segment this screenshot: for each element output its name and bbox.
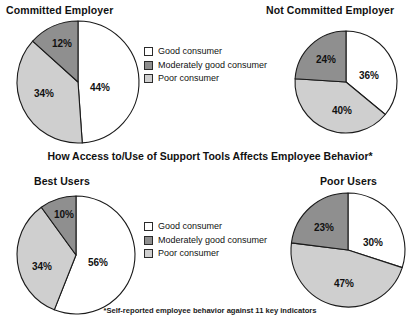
legend-label-moderate: Moderately good consumer <box>158 235 267 246</box>
pie-title-committed-employer: Committed Employer <box>6 4 113 16</box>
pie-svg-poor-users: 30%47%23% <box>288 190 408 310</box>
legend-item-moderate: Moderately good consumer <box>144 60 267 71</box>
pie-value-poor: 34% <box>32 261 52 272</box>
legend-item-good: Good consumer <box>144 46 267 57</box>
pie-value-good: 36% <box>359 70 379 81</box>
legend-swatch-good-icon <box>144 222 153 231</box>
pie-value-moderate: 23% <box>314 222 334 233</box>
legend-item-poor: Poor consumer <box>144 248 267 259</box>
pie-value-good: 56% <box>88 257 108 268</box>
pie-chart-best-users: 56%34%10% <box>14 193 138 317</box>
pie-svg-not-committed-employer: 36%40%24% <box>292 28 400 136</box>
figure-pie-chart-set: Committed Employer 44%34%12% Not Committ… <box>0 0 420 330</box>
pie-value-poor: 34% <box>34 88 54 99</box>
legend-item-good: Good consumer <box>144 221 267 232</box>
pie-value-moderate: 12% <box>52 38 72 49</box>
pie-title-best-users: Best Users <box>34 175 90 187</box>
footnote: *Self-reported employee behavior against… <box>0 306 420 315</box>
legend-swatch-good-icon <box>144 47 153 56</box>
pie-value-poor: 40% <box>332 105 352 116</box>
legend-swatch-poor-icon <box>144 249 153 258</box>
legend-item-moderate: Moderately good consumer <box>144 235 267 246</box>
pie-value-good: 44% <box>90 82 110 93</box>
legend-label-good: Good consumer <box>158 221 222 232</box>
pie-chart-not-committed-employer: 36%40%24% <box>292 28 400 136</box>
pie-value-good: 30% <box>363 237 383 248</box>
pie-chart-committed-employer: 44%34%12% <box>14 18 142 146</box>
pie-slices-poor-users <box>291 193 405 307</box>
pie-value-moderate: 24% <box>316 54 336 65</box>
pie-slices-best-users <box>17 196 135 314</box>
legend-swatch-poor-icon <box>144 74 153 83</box>
pie-svg-best-users: 56%34%10% <box>14 193 138 317</box>
legend-label-good: Good consumer <box>158 46 222 57</box>
section-heading: How Access to/Use of Support Tools Affec… <box>0 150 420 162</box>
pie-svg-committed-employer: 44%34%12% <box>14 18 142 146</box>
legend-bottom: Good consumer Moderately good consumer P… <box>144 221 267 259</box>
pie-value-moderate: 10% <box>54 209 74 220</box>
legend-swatch-moderate-icon <box>144 61 153 70</box>
legend-label-poor: Poor consumer <box>158 73 219 84</box>
pie-title-poor-users: Poor Users <box>320 175 377 187</box>
legend-top: Good consumer Moderately good consumer P… <box>144 46 267 84</box>
legend-item-poor: Poor consumer <box>144 73 267 84</box>
pie-chart-poor-users: 30%47%23% <box>288 190 408 310</box>
pie-slices-committed-employer <box>17 21 139 143</box>
legend-label-poor: Poor consumer <box>158 248 219 259</box>
pie-title-not-committed-employer: Not Committed Employer <box>266 4 394 16</box>
pie-slices-not-committed-employer <box>295 31 397 133</box>
pie-value-poor: 47% <box>334 278 354 289</box>
legend-label-moderate: Moderately good consumer <box>158 60 267 71</box>
legend-swatch-moderate-icon <box>144 236 153 245</box>
